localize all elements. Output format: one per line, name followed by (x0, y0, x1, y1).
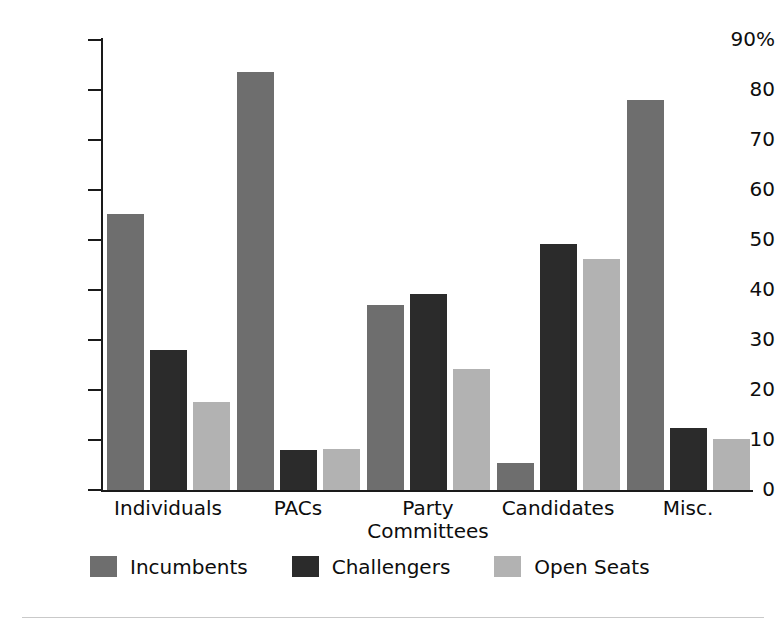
y-axis-tick (88, 489, 101, 491)
bar-open-seats (583, 259, 620, 490)
y-axis-tick (88, 389, 101, 391)
bar-open-seats (453, 369, 490, 491)
bar-challengers (410, 294, 447, 490)
bar-group (497, 40, 620, 490)
y-axis-tick (88, 189, 101, 191)
y-axis-tick (88, 39, 101, 41)
legend-label: Open Seats (534, 557, 649, 577)
chart-legend: IncumbentsChallengersOpen Seats (90, 556, 694, 577)
legend-swatch-icon (90, 556, 117, 577)
bar-group (107, 40, 230, 490)
y-axis-tick (88, 339, 101, 341)
y-axis-tick (88, 89, 101, 91)
y-axis-tick (88, 439, 101, 441)
legend-item-incumbents[interactable]: Incumbents (90, 556, 248, 577)
bar-chart-figure: 0102030405060708090% IndividualsPACsPart… (0, 0, 775, 628)
bar-open-seats (193, 402, 230, 490)
x-axis-line (101, 490, 753, 492)
bar-group (367, 40, 490, 490)
bar-group (627, 40, 750, 490)
legend-label: Challengers (332, 557, 451, 577)
y-axis-tick (88, 239, 101, 241)
legend-label: Incumbents (130, 557, 248, 577)
bar-incumbents (107, 214, 144, 490)
y-axis-tick (88, 139, 101, 141)
bar-challengers (540, 244, 577, 491)
legend-item-challengers[interactable]: Challengers (292, 556, 451, 577)
bar-challengers (670, 428, 707, 490)
bar-open-seats (323, 449, 360, 490)
legend-swatch-icon (292, 556, 319, 577)
bar-challengers (150, 350, 187, 491)
plot-area (103, 40, 753, 490)
bar-incumbents (237, 72, 274, 490)
legend-item-open-seats[interactable]: Open Seats (494, 556, 649, 577)
bar-open-seats (713, 439, 750, 491)
legend-swatch-icon (494, 556, 521, 577)
bar-incumbents (367, 305, 404, 490)
bar-group (237, 40, 360, 490)
bar-challengers (280, 450, 317, 491)
x-axis-label-misc: Misc. (588, 497, 775, 520)
footer-divider (22, 617, 764, 618)
y-axis-tick (88, 289, 101, 291)
bar-incumbents (627, 100, 664, 491)
bar-incumbents (497, 463, 534, 490)
